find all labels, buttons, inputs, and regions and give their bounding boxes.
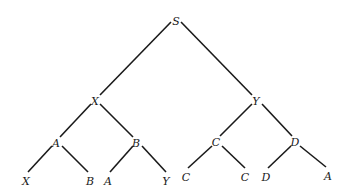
leaf-a-right: A (323, 170, 332, 183)
tree-edge (300, 146, 326, 167)
tree-edge (60, 104, 91, 137)
node-y: Y (252, 95, 261, 108)
tree-diagram: S X Y A B C D X B A Y C C D A (0, 0, 349, 193)
tree-edge (110, 146, 133, 172)
leaf-b: B (85, 175, 94, 188)
tree-edge (181, 22, 252, 95)
tree-edge (268, 146, 291, 168)
tree-edge (100, 104, 133, 137)
node-d: D (290, 136, 300, 149)
node-root-s: S (172, 15, 180, 28)
leaf-a: A (103, 175, 112, 188)
leaf-c-left: C (182, 171, 191, 184)
tree-edges (28, 22, 326, 172)
tree-edge (62, 146, 88, 172)
tree-edge (222, 146, 245, 168)
tree-node-labels: S X Y A B C D X B A Y C C D A (21, 15, 332, 188)
node-a: A (51, 137, 60, 150)
tree-edge (188, 146, 212, 168)
tree-edge (100, 22, 171, 95)
tree-edge (220, 104, 252, 136)
tree-edge (142, 146, 166, 172)
tree-edge (28, 146, 52, 172)
leaf-c-right: C (241, 171, 250, 184)
node-x: X (90, 95, 100, 108)
tree-edge (262, 104, 292, 136)
leaf-y: Y (162, 175, 171, 188)
leaf-d: D (261, 171, 271, 184)
node-b: B (131, 137, 140, 150)
node-c: C (212, 136, 221, 149)
leaf-x: X (21, 175, 31, 188)
